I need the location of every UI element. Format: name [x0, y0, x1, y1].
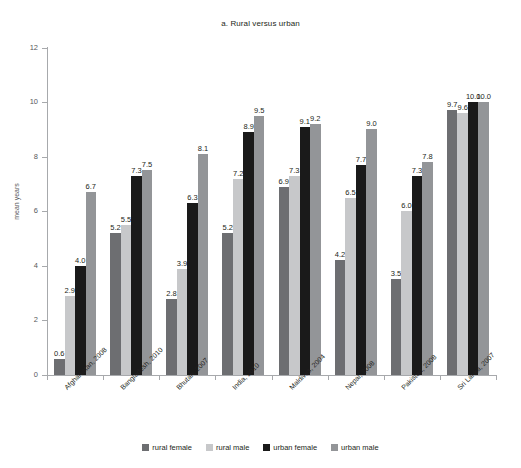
- bar: [289, 176, 300, 375]
- bar: [86, 192, 97, 375]
- legend-item[interactable]: rural female: [142, 443, 192, 452]
- bar-group: 5.25.57.37.5: [110, 47, 152, 375]
- bar-group: 9.79.610.010.0: [447, 47, 489, 375]
- y-axis-line: [47, 47, 48, 376]
- bar: [468, 102, 479, 375]
- legend-item[interactable]: urban male: [331, 443, 379, 452]
- legend-swatch-icon: [331, 444, 338, 451]
- legend-label: urban female: [273, 443, 317, 452]
- x-axis-tick: [103, 375, 104, 380]
- bar-value-label: 7.8: [413, 152, 443, 161]
- bar: [142, 170, 153, 375]
- x-axis-tick: [440, 375, 441, 380]
- bar: [131, 176, 142, 375]
- x-axis-tick: [47, 375, 48, 380]
- bar: [478, 102, 489, 375]
- bar: [447, 110, 458, 375]
- bar: [75, 266, 86, 375]
- y-axis-tick-label: 2: [14, 316, 38, 324]
- bar: [345, 198, 356, 375]
- y-axis-tick-label: 10: [14, 98, 38, 106]
- y-axis-tick: [42, 102, 47, 103]
- legend-item[interactable]: rural male: [206, 443, 249, 452]
- bar: [198, 154, 209, 375]
- bar-group: 6.97.39.19.2: [279, 47, 321, 375]
- legend-swatch-icon: [263, 444, 270, 451]
- bar: [422, 162, 433, 375]
- bar: [166, 299, 177, 375]
- legend-swatch-icon: [142, 444, 149, 451]
- x-axis-tick: [496, 375, 497, 380]
- x-axis-tick: [272, 375, 273, 380]
- chart-title: a. Rural versus urban: [0, 19, 521, 28]
- y-axis-tick: [42, 48, 47, 49]
- y-axis-tick: [42, 211, 47, 212]
- bar-group: 2.83.96.38.1: [166, 47, 208, 375]
- bar: [121, 225, 132, 375]
- bar-value-label: 9.2: [300, 114, 330, 123]
- bar-group: 3.56.07.37.8: [391, 47, 433, 375]
- bar: [54, 359, 65, 375]
- bar: [65, 296, 76, 375]
- chart-legend: rural femalerural maleurban femaleurban …: [0, 443, 521, 452]
- bar-value-label: 7.5: [132, 160, 162, 169]
- bar: [243, 132, 254, 375]
- bar: [335, 260, 346, 375]
- bar: [110, 233, 121, 375]
- legend-label: rural female: [152, 443, 192, 452]
- bar: [401, 211, 412, 375]
- bar-group: 0.62.94.06.7: [54, 47, 96, 375]
- bar: [187, 203, 198, 375]
- bar: [391, 279, 402, 375]
- y-axis-tick-label: 0: [14, 371, 38, 379]
- bar-value-label: 8.1: [188, 144, 218, 153]
- bar-value-label: 9.5: [244, 106, 274, 115]
- bar: [279, 187, 290, 375]
- bar-value-label: 6.7: [76, 182, 106, 191]
- y-axis-tick-label: 4: [14, 262, 38, 270]
- y-axis-tick-label: 6: [14, 207, 38, 215]
- bar: [356, 165, 367, 375]
- bar-group: 4.26.57.79.0: [335, 47, 377, 375]
- bar: [300, 127, 311, 375]
- bar: [366, 129, 377, 375]
- x-axis-tick: [159, 375, 160, 380]
- y-axis-tick-label: 8: [14, 153, 38, 161]
- bar: [412, 176, 423, 375]
- legend-label: urban male: [341, 443, 379, 452]
- legend-item[interactable]: urban female: [263, 443, 317, 452]
- y-axis-title: mean years: [13, 172, 20, 232]
- x-axis-tick: [384, 375, 385, 380]
- legend-label: rural male: [216, 443, 249, 452]
- x-axis-tick: [328, 375, 329, 380]
- legend-swatch-icon: [206, 444, 213, 451]
- y-axis-tick: [42, 320, 47, 321]
- bar: [254, 116, 265, 375]
- x-axis-tick: [215, 375, 216, 380]
- bar: [457, 113, 468, 375]
- bar: [310, 124, 321, 375]
- bar-chart: a. Rural versus urban mean years 0246810…: [0, 0, 521, 468]
- bar-value-label: 9.0: [356, 119, 386, 128]
- bar: [177, 269, 188, 375]
- bar: [222, 233, 233, 375]
- bar-group: 5.27.28.99.5: [222, 47, 264, 375]
- y-axis-tick: [42, 157, 47, 158]
- bar: [233, 179, 244, 376]
- y-axis-tick: [42, 266, 47, 267]
- y-axis-tick-label: 12: [14, 44, 38, 52]
- bar-value-label: 10.0: [469, 92, 499, 101]
